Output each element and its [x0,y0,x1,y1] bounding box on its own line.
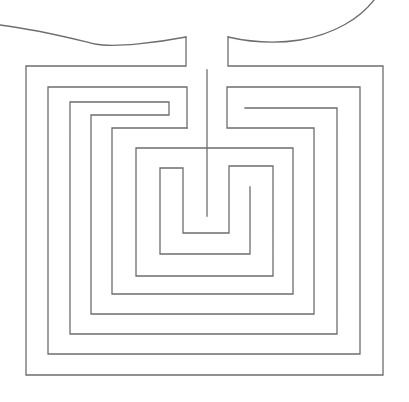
top-left-curve [0,25,186,45]
top-right-curve [228,0,374,42]
maze-walls [26,37,383,375]
labyrinth-diagram [0,0,409,402]
ring-2 [48,87,360,354]
ring-3 [112,128,293,294]
entrance-left-wall [26,37,383,375]
top-curves [0,0,374,45]
